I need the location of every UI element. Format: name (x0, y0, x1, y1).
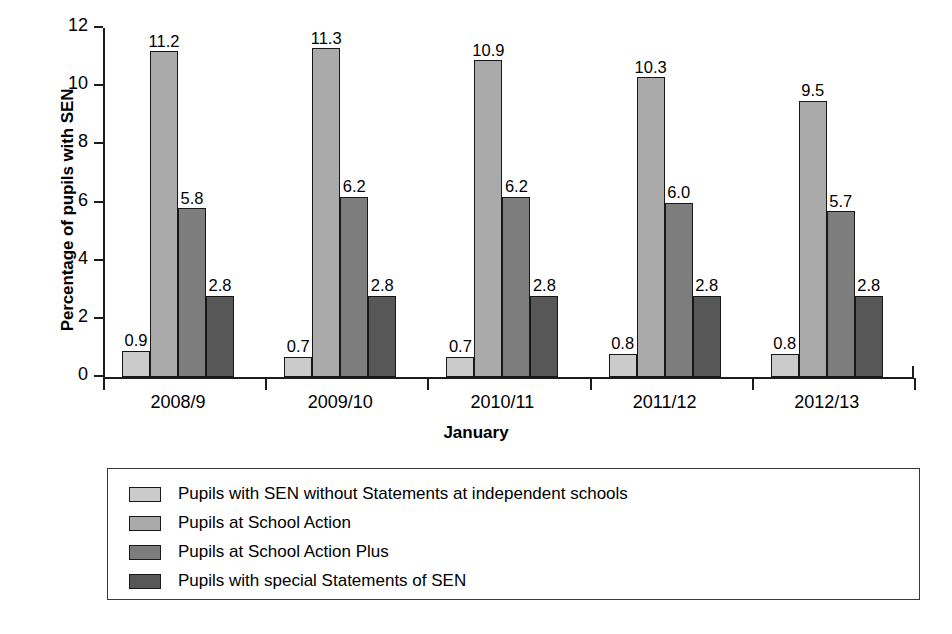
legend-items: Pupils with SEN without Statements at in… (129, 480, 628, 596)
bar: 6.2 (502, 197, 530, 377)
x-axis-group-label: 2012/13 (794, 392, 859, 413)
bar: 2.8 (693, 296, 721, 377)
legend-label: Pupils at School Action (178, 513, 351, 533)
bar-value-label: 10.3 (635, 59, 667, 76)
y-tick: 10 (94, 84, 103, 86)
bar-value-label: 0.9 (125, 332, 148, 349)
y-tick: 8 (94, 142, 103, 144)
x-axis-line (103, 377, 914, 379)
legend-swatch (129, 545, 161, 560)
bar: 0.8 (771, 354, 799, 377)
bar-value-label: 0.7 (449, 338, 472, 355)
bar: 5.8 (178, 208, 206, 377)
y-tick-label: 8 (78, 131, 88, 152)
bar-value-label: 6.2 (505, 178, 528, 195)
bar: 10.9 (474, 60, 502, 377)
y-tick: 0 (94, 375, 103, 377)
legend-swatch (129, 516, 161, 531)
bar: 2.8 (855, 296, 883, 377)
bar: 11.2 (150, 51, 178, 377)
y-tick: 12 (94, 26, 103, 28)
bar: 6.2 (340, 197, 368, 377)
legend-item[interactable]: Pupils at School Action (129, 509, 628, 537)
bar-value-label: 6.0 (667, 184, 690, 201)
legend-item[interactable]: Pupils with SEN without Statements at in… (129, 480, 628, 508)
x-tick (103, 378, 105, 390)
bar-value-label: 5.7 (829, 193, 852, 210)
x-tick (265, 378, 267, 390)
bar: 0.7 (284, 357, 312, 377)
x-axis-title: January (0, 423, 952, 443)
bar-value-label: 2.8 (695, 277, 718, 294)
x-axis-group-label: 2011/12 (633, 392, 697, 413)
y-tick-label: 10 (68, 73, 88, 94)
bar-value-label: 9.5 (801, 82, 824, 99)
y-tick-label: 12 (68, 15, 88, 36)
bar: 10.3 (637, 77, 665, 377)
bar: 2.8 (530, 296, 558, 377)
bar-value-label: 6.2 (343, 178, 366, 195)
bar: 0.7 (446, 357, 474, 377)
bar-value-label: 0.8 (611, 335, 634, 352)
bar-chart: Percentage of pupils with SEN 024681012 … (0, 0, 952, 634)
legend-item[interactable]: Pupils with special Statements of SEN (129, 567, 628, 595)
x-axis-group-label: 2010/11 (471, 392, 535, 413)
legend-swatch (129, 574, 161, 589)
bar: 2.8 (368, 296, 396, 377)
bar-value-label: 10.9 (472, 42, 504, 59)
bar: 0.9 (122, 351, 150, 377)
legend: Pupils with SEN without Statements at in… (107, 468, 920, 600)
y-tick-label: 6 (78, 190, 88, 211)
x-tick (427, 378, 429, 390)
bar-value-label: 2.8 (371, 277, 394, 294)
x-tick (590, 378, 592, 390)
bar-value-label: 0.7 (287, 338, 310, 355)
legend-label: Pupils at School Action Plus (178, 542, 389, 562)
x-axis-group-label: 2008/9 (150, 392, 205, 413)
bar: 5.7 (827, 211, 855, 377)
bar-value-label: 11.2 (149, 33, 180, 50)
bar-value-label: 0.8 (773, 335, 796, 352)
bar-value-label: 11.3 (311, 30, 342, 47)
y-tick: 6 (94, 201, 103, 203)
legend-label: Pupils with special Statements of SEN (178, 571, 466, 591)
x-tick (914, 378, 916, 390)
bar-value-label: 2.8 (209, 277, 232, 294)
bar-value-label: 2.8 (533, 277, 556, 294)
x-tick (752, 378, 754, 390)
y-axis-line (103, 28, 105, 379)
x-axis-group-label: 2009/10 (308, 392, 373, 413)
y-tick-label: 4 (78, 248, 88, 269)
bar-value-label: 5.8 (181, 190, 204, 207)
bar-value-label: 2.8 (857, 277, 880, 294)
bar: 2.8 (206, 296, 234, 377)
bar: 11.3 (312, 48, 340, 377)
legend-swatch (129, 487, 161, 502)
y-tick: 4 (94, 259, 103, 261)
y-tick-label: 0 (78, 364, 88, 385)
bar: 0.8 (609, 354, 637, 377)
legend-label: Pupils with SEN without Statements at in… (178, 484, 628, 504)
y-tick: 2 (94, 317, 103, 319)
bar: 9.5 (799, 101, 827, 377)
y-tick-label: 2 (78, 306, 88, 327)
legend-item[interactable]: Pupils at School Action Plus (129, 538, 628, 566)
plot-area: 024681012 0.911.25.82.80.711.36.22.80.71… (103, 28, 914, 378)
bar: 6.0 (665, 203, 693, 378)
